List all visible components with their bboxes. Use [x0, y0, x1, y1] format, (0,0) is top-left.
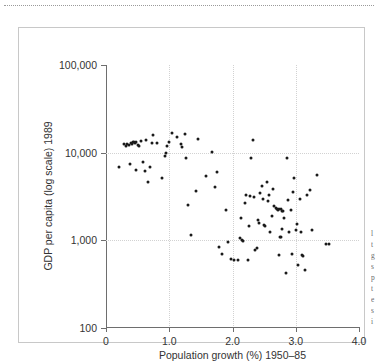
scatter-point	[194, 189, 197, 192]
scatter-point	[250, 157, 253, 160]
scatter-point	[189, 234, 192, 237]
x-axis-title: Population growth (%) 1950–85	[106, 349, 359, 361]
scatter-point	[236, 258, 239, 261]
scatter-point	[210, 150, 213, 153]
gridline-vertical	[233, 65, 234, 328]
scatter-point	[265, 181, 268, 184]
scatter-point	[176, 135, 179, 138]
x-tick-mark	[169, 327, 170, 332]
scatter-point	[280, 236, 283, 239]
y-tick-label: 1,000	[71, 234, 97, 246]
scatter-point	[217, 246, 220, 249]
scatter-point	[290, 252, 293, 255]
scatter-point	[246, 258, 249, 261]
page-top-dotted-rule	[4, 5, 374, 6]
scatter-point	[139, 139, 142, 142]
scatter-point	[327, 243, 330, 246]
margin-line-2: t	[371, 239, 378, 250]
scatter-point	[242, 239, 245, 242]
x-tick-label: 4.0	[352, 335, 367, 347]
x-tick-label: 1.0	[162, 335, 177, 347]
scatter-point	[167, 140, 170, 143]
y-axis-title: GDP per capita (log scale) 1989	[42, 121, 54, 270]
scatter-point	[180, 146, 183, 149]
scatter-point	[185, 156, 188, 159]
scatter-point	[232, 258, 235, 261]
gridline-vertical	[296, 65, 297, 328]
scatter-point	[269, 230, 272, 233]
scatter-point	[216, 171, 219, 174]
scatter-point	[298, 197, 301, 200]
y-tick-label: 100,000	[59, 59, 97, 71]
scatter-point	[155, 141, 158, 144]
scatter-point	[316, 173, 319, 176]
margin-line-7: e	[371, 294, 378, 305]
scatter-point	[260, 184, 263, 187]
scatter-point	[288, 230, 291, 233]
margin-body-text: l t g s p t e s i	[371, 228, 378, 327]
scatter-point	[297, 264, 300, 267]
x-tick-label: 3.0	[288, 335, 303, 347]
scatter-point	[266, 200, 269, 203]
scatter-point	[129, 162, 132, 165]
scatter-point	[150, 141, 153, 144]
scatter-point	[302, 255, 305, 258]
scatter-point	[311, 229, 314, 232]
scatter-point	[271, 187, 274, 190]
scatter-plot-area: 01.02.03.04.01001,00010,000100,000	[106, 65, 359, 328]
y-tick-mark	[101, 240, 106, 241]
scatter-point	[213, 185, 216, 188]
x-tick-mark	[106, 327, 107, 332]
scatter-point	[281, 227, 284, 230]
scatter-point	[245, 193, 248, 196]
scatter-point	[287, 198, 290, 201]
scatter-point	[299, 230, 302, 233]
y-axis-line	[106, 65, 107, 328]
scatter-point	[247, 225, 250, 228]
scatter-point	[141, 160, 144, 163]
x-tick-mark	[296, 327, 297, 332]
scatter-point	[285, 156, 288, 159]
scatter-point	[137, 145, 140, 148]
scatter-point	[244, 201, 247, 204]
gridline-horizontal	[106, 240, 359, 241]
scatter-point	[149, 166, 152, 169]
scatter-point	[294, 229, 297, 232]
scatter-point	[282, 210, 285, 213]
figure-frame: 01.02.03.04.01001,00010,000100,000 Popul…	[18, 27, 365, 343]
scatter-point	[293, 176, 296, 179]
y-tick-mark	[101, 328, 106, 329]
scatter-point	[255, 246, 258, 249]
scatter-point	[292, 190, 295, 193]
scatter-point	[284, 272, 287, 275]
scatter-point	[253, 196, 256, 199]
x-tick-mark	[233, 327, 234, 332]
scatter-point	[146, 181, 149, 184]
margin-line-5: p	[371, 272, 378, 283]
scatter-point	[264, 225, 267, 228]
scatter-point	[165, 152, 168, 155]
margin-line-1: l	[371, 228, 378, 239]
scatter-point	[249, 195, 252, 198]
x-tick-label: 0	[103, 335, 109, 347]
scatter-point	[270, 214, 273, 217]
scatter-point	[308, 188, 311, 191]
scatter-point	[204, 175, 207, 178]
scatter-point	[251, 138, 254, 141]
scatter-point	[184, 132, 187, 135]
scatter-point	[258, 221, 261, 224]
scatter-point	[160, 176, 163, 179]
scatter-point	[240, 216, 243, 219]
y-tick-mark	[101, 65, 106, 66]
gridline-vertical	[169, 65, 170, 328]
scatter-point	[259, 191, 262, 194]
margin-line-9: i	[371, 316, 378, 327]
scatter-point	[303, 268, 306, 271]
scatter-point	[221, 252, 224, 255]
scatter-point	[283, 216, 286, 219]
scatter-point	[296, 222, 299, 225]
scatter-point	[134, 168, 137, 171]
scatter-point	[171, 132, 174, 135]
scatter-point	[289, 209, 292, 212]
